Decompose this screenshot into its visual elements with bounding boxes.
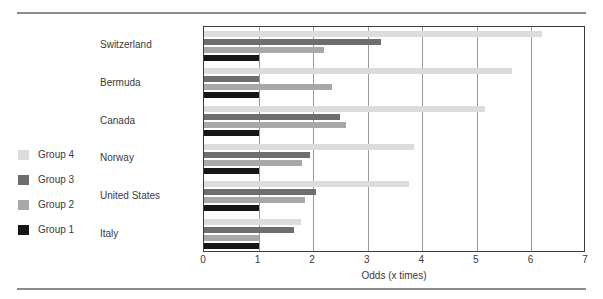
- bar[interactable]: [204, 160, 302, 166]
- bar[interactable]: [204, 68, 512, 74]
- bar[interactable]: [204, 235, 259, 241]
- bar[interactable]: [204, 219, 301, 225]
- odds-bar-chart: SwitzerlandBermudaCanadaNorwayUnited Sta…: [0, 0, 603, 299]
- bar[interactable]: [204, 205, 259, 211]
- bar[interactable]: [204, 168, 259, 174]
- bar-rows: [204, 27, 584, 251]
- bar[interactable]: [204, 114, 340, 120]
- x-tick-label-1: 1: [255, 254, 261, 266]
- bar-group: [204, 178, 584, 216]
- bar-group: [204, 215, 584, 253]
- bar-group: [204, 102, 584, 140]
- x-tick-label-2: 2: [309, 254, 315, 266]
- bar[interactable]: [204, 31, 542, 37]
- x-axis-tick-labels: 01234567: [203, 254, 585, 268]
- bar-group: [204, 65, 584, 103]
- x-tick-label-7: 7: [582, 254, 588, 266]
- bar[interactable]: [204, 152, 310, 158]
- x-tick-label-0: 0: [200, 254, 206, 266]
- bar[interactable]: [204, 197, 305, 203]
- bar[interactable]: [204, 243, 259, 249]
- category-label-switzerland: Switzerland: [100, 26, 193, 64]
- bar[interactable]: [204, 122, 346, 128]
- bar[interactable]: [204, 76, 259, 82]
- bar[interactable]: [204, 181, 409, 187]
- x-tick-label-3: 3: [364, 254, 370, 266]
- x-tick-label-5: 5: [473, 254, 479, 266]
- category-axis-labels: SwitzerlandBermudaCanadaNorwayUnited Sta…: [100, 26, 198, 252]
- x-axis-title: Odds (x times): [203, 270, 585, 282]
- bar[interactable]: [204, 84, 332, 90]
- bar-group: [204, 27, 584, 65]
- bar[interactable]: [204, 39, 381, 45]
- category-label-canada: Canada: [100, 101, 193, 139]
- category-label-united-states: United States: [100, 177, 193, 215]
- x-tick-label-4: 4: [419, 254, 425, 266]
- bar[interactable]: [204, 106, 485, 112]
- bar[interactable]: [204, 92, 259, 98]
- category-label-italy: Italy: [100, 214, 193, 252]
- category-label-norway: Norway: [100, 139, 193, 177]
- bar[interactable]: [204, 47, 324, 53]
- x-tick-label-6: 6: [528, 254, 534, 266]
- bar[interactable]: [204, 189, 316, 195]
- plot-area: [203, 26, 585, 252]
- bar-group: [204, 140, 584, 178]
- bar[interactable]: [204, 130, 259, 136]
- category-label-bermuda: Bermuda: [100, 64, 193, 102]
- bar[interactable]: [204, 55, 259, 61]
- bar[interactable]: [204, 144, 414, 150]
- bar[interactable]: [204, 227, 294, 233]
